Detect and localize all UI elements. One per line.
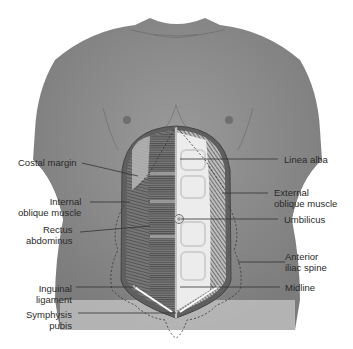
label-inguinal-ligament: Inguinal ligament (36, 283, 72, 305)
label-text: iliac spine (285, 262, 327, 273)
label-text: Linea alba (284, 154, 328, 165)
label-linea-alba: Linea alba (284, 154, 328, 165)
label-external-oblique: External oblique muscle (274, 187, 337, 209)
label-text: Internal (18, 196, 81, 207)
label-costal-margin: Costal margin (18, 157, 77, 168)
anatomy-diagram: Costal margin Internal oblique muscle Re… (0, 0, 353, 349)
label-text: Midline (285, 282, 315, 293)
label-anterior-iliac-spine: Anterior iliac spine (285, 251, 327, 273)
label-text: Umbilicus (284, 214, 325, 225)
label-text: ligament (36, 294, 72, 305)
label-text: oblique muscle (274, 198, 337, 209)
label-text: abdominus (26, 235, 72, 246)
label-umbilicus: Umbilicus (284, 214, 325, 225)
label-text: oblique muscle (18, 207, 81, 218)
label-symphysis-pubis: Symphysis pubis (26, 309, 72, 331)
label-text: External (274, 187, 337, 198)
label-text: Rectus (26, 224, 72, 235)
label-text: Anterior (285, 251, 327, 262)
label-text: pubis (26, 320, 72, 331)
label-midline: Midline (285, 282, 315, 293)
label-text: Inguinal (36, 283, 72, 294)
label-text: Costal margin (18, 157, 77, 168)
label-rectus-abdominus: Rectus abdominus (26, 224, 72, 246)
label-internal-oblique: Internal oblique muscle (18, 196, 81, 218)
label-text: Symphysis (26, 309, 72, 320)
